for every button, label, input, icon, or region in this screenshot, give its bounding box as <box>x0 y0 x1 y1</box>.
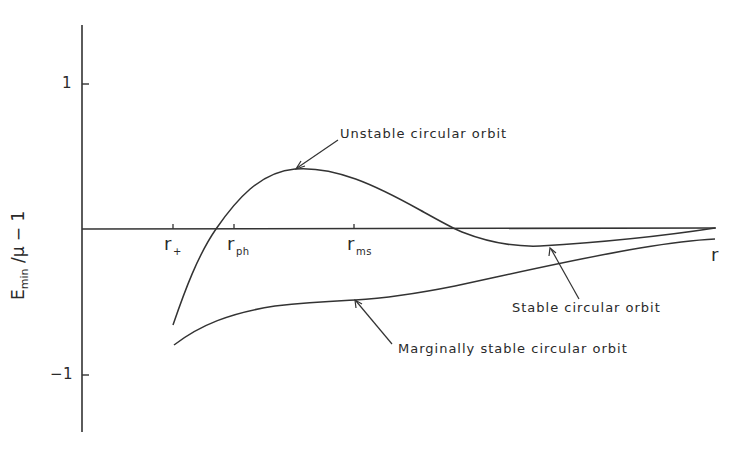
annotation-stable-orbit: Stable circular orbit <box>512 300 661 315</box>
r-ph-main: r <box>227 233 235 254</box>
arrow-marginal <box>355 300 392 344</box>
y-axis-label: Emin /μ − 1 <box>8 211 28 300</box>
r-plus-sub: + <box>173 246 182 257</box>
x-axis-label: r <box>711 244 719 265</box>
annotation-marginally-stable-orbit: Marginally stable circular orbit <box>398 341 628 356</box>
x-axis-zero-line <box>82 228 716 229</box>
arrow-stable <box>549 248 579 299</box>
x-tick-label-r-ms: rms <box>347 233 372 254</box>
r-plus-main: r <box>164 233 172 254</box>
y-tick-label-neg1: −1 <box>50 365 73 383</box>
y-label-rest: /μ − 1 <box>8 211 28 269</box>
r-ph-sub: ph <box>236 246 250 257</box>
r-ms-main: r <box>347 233 355 254</box>
x-tick-label-r-ph: rph <box>227 233 250 254</box>
r-ms-sub: ms <box>356 246 372 257</box>
diagram-canvas <box>0 0 747 453</box>
y-label-sub: min <box>18 269 31 290</box>
arrow-unstable <box>296 140 338 169</box>
y-tick-label-1: 1 <box>62 74 72 92</box>
marginally-stable-curve <box>174 239 715 345</box>
y-label-main: E <box>8 289 28 300</box>
x-tick-label-r-plus: r+ <box>164 233 182 254</box>
annotation-unstable-orbit: Unstable circular orbit <box>340 126 507 141</box>
